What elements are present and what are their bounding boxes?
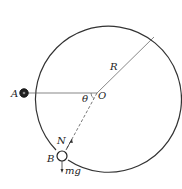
normal-force-arrowhead — [70, 139, 73, 143]
radius-line-r — [97, 37, 154, 93]
bead-b — [57, 151, 67, 161]
label-b: B — [46, 153, 54, 164]
circular-track-diagram: A O R θ N B mg — [0, 0, 182, 189]
angle-arc — [91, 93, 94, 99]
label-o: O — [98, 90, 106, 101]
label-theta: θ — [82, 93, 88, 104]
label-mg: mg — [65, 165, 81, 176]
label-r: R — [109, 61, 118, 72]
circle-track — [35, 26, 181, 172]
bead-a-highlight — [23, 92, 26, 95]
label-a: A — [10, 88, 18, 99]
label-n: N — [56, 135, 67, 146]
diagram-svg: A O R θ N B mg — [0, 0, 182, 189]
weight-arrowhead — [61, 169, 64, 173]
